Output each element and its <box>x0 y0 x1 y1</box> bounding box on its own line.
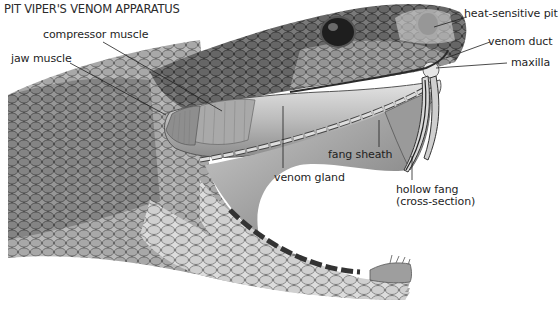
label-compressor-muscle: compressor muscle <box>43 29 148 41</box>
label-venom-duct: venom duct <box>488 36 553 48</box>
label-heat-sensitive-pit: heat-sensitive pit <box>464 8 558 20</box>
venom-apparatus-diagram: PIT VIPER'S VENOM APPARATUS compressor m… <box>0 0 558 313</box>
snake-head-illustration <box>0 0 558 313</box>
label-jaw-muscle: jaw muscle <box>11 53 72 65</box>
label-maxilla: maxilla <box>511 57 550 69</box>
label-venom-gland: venom gland <box>274 172 345 184</box>
maxilla-bone <box>423 62 439 78</box>
diagram-title: PIT VIPER'S VENOM APPARATUS <box>4 2 180 16</box>
label-hollow-fang: hollow fang (cross-section) <box>396 184 475 208</box>
eye <box>321 17 355 47</box>
label-fang-sheath: fang sheath <box>328 149 392 161</box>
label-hollow-fang-line2: (cross-section) <box>396 196 475 208</box>
